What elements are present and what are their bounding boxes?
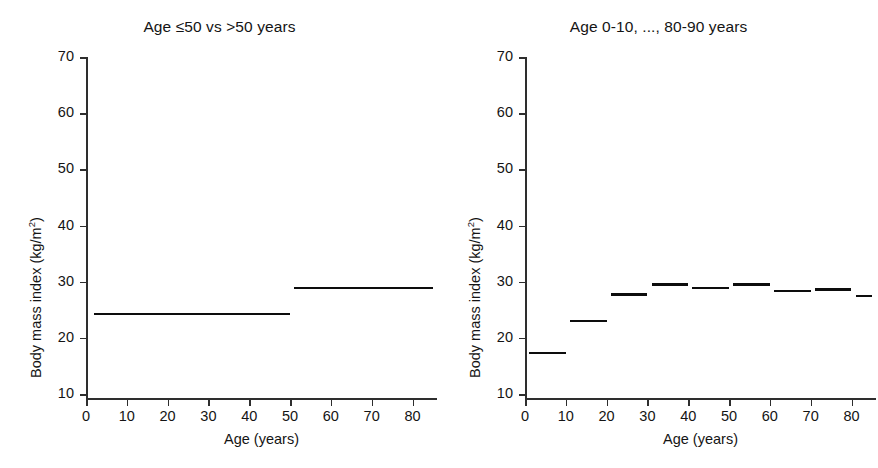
x-tick-80 (852, 400, 854, 406)
x-tick-label-60: 60 (750, 408, 790, 424)
y-axis-title-main: Body mass index (kg/m (28, 227, 44, 378)
y-tick-70 (80, 57, 86, 59)
y-tick-label-40: 40 (40, 217, 74, 233)
y-tick-label-50: 50 (479, 160, 513, 176)
panel-left: Age ≤50 vs >50 years 1020304050607001020… (0, 0, 439, 468)
x-axis-title: Age (years) (86, 431, 437, 447)
x-axis-line (525, 398, 876, 400)
x-tick-label-10: 10 (546, 408, 586, 424)
y-tick-label-20: 20 (479, 329, 513, 345)
y-axis-line (86, 57, 88, 398)
figure-canvas: Age ≤50 vs >50 years 1020304050607001020… (0, 0, 878, 468)
y-tick-label-40: 40 (479, 217, 513, 233)
step-segment-10-20 (570, 320, 607, 322)
y-tick-50 (519, 169, 525, 171)
x-tick-label-80: 80 (832, 408, 872, 424)
y-tick-label-10: 10 (479, 385, 513, 401)
step-segment-40-50 (692, 287, 729, 289)
x-tick-0 (525, 400, 527, 406)
x-tick-80 (413, 400, 415, 406)
x-tick-30 (208, 400, 210, 406)
panel-left-title: Age ≤50 vs >50 years (0, 18, 439, 36)
y-tick-label-30: 30 (479, 273, 513, 289)
y-tick-10 (519, 394, 525, 396)
x-tick-label-80: 80 (393, 408, 433, 424)
y-tick-20 (519, 338, 525, 340)
y-axis-title-exponent: 2 (26, 222, 37, 227)
panel-right-title: Age 0-10, ..., 80-90 years (439, 18, 878, 36)
y-tick-30 (80, 282, 86, 284)
x-tick-label-40: 40 (668, 408, 708, 424)
y-tick-40 (80, 226, 86, 228)
step-segment->50 years (294, 287, 433, 289)
step-segment-30-40 (652, 283, 689, 285)
x-tick-label-20: 20 (148, 408, 188, 424)
y-axis-title-exponent: 2 (465, 222, 476, 227)
y-tick-60 (519, 113, 525, 115)
x-tick-10 (566, 400, 568, 406)
y-tick-label-60: 60 (40, 104, 74, 120)
x-tick-10 (127, 400, 129, 406)
y-tick-label-20: 20 (40, 329, 74, 345)
y-axis-title-tail: ) (28, 217, 44, 222)
x-tick-label-30: 30 (627, 408, 667, 424)
x-tick-label-40: 40 (229, 408, 269, 424)
step-segment-20-30 (611, 293, 648, 295)
panel-right: Age 0-10, ..., 80-90 years 1020304050607… (439, 0, 878, 468)
x-axis-line (86, 398, 437, 400)
y-tick-50 (80, 169, 86, 171)
x-tick-label-50: 50 (270, 408, 310, 424)
y-tick-label-50: 50 (40, 160, 74, 176)
x-tick-70 (811, 400, 813, 406)
x-tick-label-0: 0 (505, 408, 545, 424)
y-tick-30 (519, 282, 525, 284)
x-tick-label-20: 20 (587, 408, 627, 424)
y-axis-title-tail: ) (467, 217, 483, 222)
y-tick-20 (80, 338, 86, 340)
y-tick-60 (80, 113, 86, 115)
y-axis-title: Body mass index (kg/m2) (26, 217, 44, 378)
x-tick-40 (688, 400, 690, 406)
y-tick-label-10: 10 (40, 385, 74, 401)
x-tick-label-60: 60 (311, 408, 351, 424)
step-segment-0-10 (529, 352, 566, 354)
x-tick-label-10: 10 (107, 408, 147, 424)
y-axis-title: Body mass index (kg/m2) (465, 217, 483, 378)
x-tick-50 (729, 400, 731, 406)
x-tick-50 (290, 400, 292, 406)
y-axis-line (525, 57, 527, 398)
y-tick-label-60: 60 (479, 104, 513, 120)
x-tick-label-30: 30 (188, 408, 228, 424)
x-tick-20 (168, 400, 170, 406)
y-tick-label-30: 30 (40, 273, 74, 289)
x-tick-0 (86, 400, 88, 406)
x-axis-title: Age (years) (525, 431, 876, 447)
x-tick-label-50: 50 (709, 408, 749, 424)
y-tick-label-70: 70 (40, 48, 74, 64)
y-tick-10 (80, 394, 86, 396)
x-tick-20 (607, 400, 609, 406)
x-tick-label-70: 70 (352, 408, 392, 424)
y-tick-40 (519, 226, 525, 228)
x-tick-40 (249, 400, 251, 406)
x-tick-60 (770, 400, 772, 406)
step-segment-70-80 (815, 288, 852, 290)
x-tick-30 (647, 400, 649, 406)
x-tick-70 (372, 400, 374, 406)
x-tick-60 (331, 400, 333, 406)
y-axis-title-main: Body mass index (kg/m (467, 227, 483, 378)
x-tick-label-70: 70 (791, 408, 831, 424)
y-tick-label-70: 70 (479, 48, 513, 64)
x-tick-label-0: 0 (66, 408, 106, 424)
step-segment-60-70 (774, 290, 811, 292)
y-tick-70 (519, 57, 525, 59)
step-segment-80-90 (856, 295, 872, 297)
step-segment-≤50 years (94, 313, 290, 315)
step-segment-50-60 (733, 283, 770, 285)
